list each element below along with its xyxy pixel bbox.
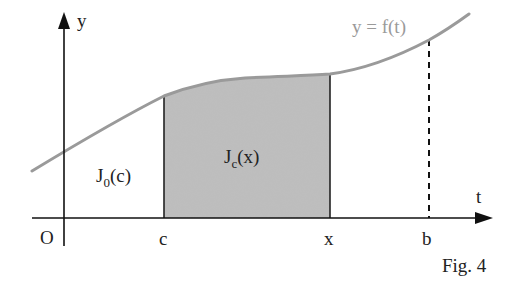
- integral-diagram: y t O c x b y = f(t) J0(c) Jc(x) Fig. 4: [0, 0, 517, 284]
- tick-label-b: b: [422, 228, 432, 249]
- y-axis-label: y: [77, 10, 87, 31]
- curve-label: y = f(t): [352, 16, 406, 38]
- tick-label-x: x: [324, 228, 334, 249]
- tick-label-c: c: [159, 228, 167, 249]
- y-axis-arrow-icon: [58, 12, 70, 29]
- figure-caption: Fig. 4: [442, 255, 487, 276]
- region-label-J0c: J0(c): [96, 165, 131, 190]
- t-axis-label: t: [476, 186, 482, 207]
- origin-label: O: [40, 227, 54, 248]
- t-axis-arrow-icon: [475, 212, 493, 224]
